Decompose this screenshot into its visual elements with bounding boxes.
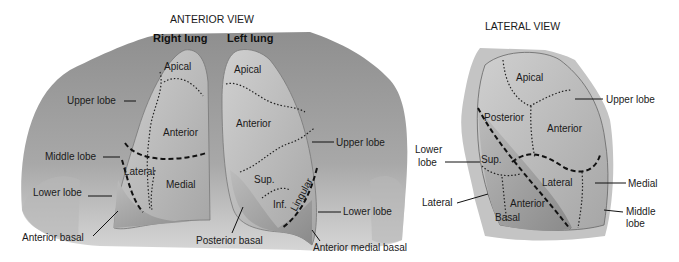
segment-label: Apical: [516, 72, 543, 83]
segment-label: Medial: [166, 179, 195, 190]
segment-label: Anterior: [236, 118, 272, 129]
callout-label: Lower lobe: [343, 206, 392, 217]
callout-label: Lower lobe: [33, 187, 82, 198]
segment-label: Anterior: [163, 127, 199, 138]
segment-label: Anterior: [547, 123, 583, 134]
segment-label: Lateral: [542, 177, 573, 188]
callout-label: Middle: [626, 206, 656, 217]
callout-label: Middle lobe: [45, 151, 97, 162]
callout-label: lobe: [418, 157, 437, 168]
callout-label: lobe: [626, 218, 645, 229]
callout-label: Upper lobe: [606, 94, 655, 105]
segment-label: Basal: [495, 212, 520, 223]
callout-label: Lower: [415, 144, 443, 155]
lung-segments-diagram: ANTERIOR VIEW Right lung Left lung Apica…: [0, 0, 679, 262]
segment-label: Apical: [234, 64, 261, 75]
segment-label: Anterior: [510, 198, 546, 209]
anterior-view: ANTERIOR VIEW Right lung Left lung Apica…: [21, 13, 407, 253]
callout-label: Posterior basal: [196, 235, 263, 246]
callout-label: Anterior medial basal: [313, 242, 407, 253]
segment-label: Apical: [164, 61, 191, 72]
callout-label: Medial: [628, 178, 657, 189]
segment-label: Sup.: [481, 154, 502, 165]
segment-label: Posterior: [484, 112, 525, 123]
left-lung-heading: Left lung: [227, 32, 273, 44]
lateral-view-title: LATERAL VIEW: [485, 20, 560, 32]
callout-label: Lateral: [422, 197, 453, 208]
callout-label: Upper lobe: [67, 95, 116, 106]
callout-label: Anterior basal: [22, 232, 84, 243]
segment-label: Lateral: [124, 166, 155, 177]
anterior-view-title: ANTERIOR VIEW: [170, 13, 254, 25]
segment-label: Inf.: [273, 199, 287, 210]
right-lung-heading: Right lung: [153, 32, 207, 44]
segment-label: Sup.: [254, 174, 275, 185]
lateral-view: LATERAL VIEW Apical Posterior Anterior S…: [415, 20, 657, 241]
callout-label: Upper lobe: [336, 137, 385, 148]
